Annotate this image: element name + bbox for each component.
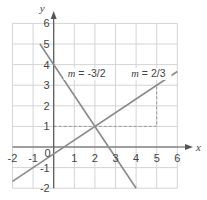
x-tick-label: 3 xyxy=(112,152,118,164)
slope-value: = -3/2 xyxy=(75,67,105,79)
y-tick-label: -1 xyxy=(40,162,50,174)
y-tick-label: 6 xyxy=(44,17,50,29)
x-tick-label: 1 xyxy=(71,152,77,164)
y-tick-label: 4 xyxy=(44,59,50,71)
origin-label: 0 xyxy=(45,147,51,159)
x-tick-label: 2 xyxy=(92,152,98,164)
x-tick-label: 6 xyxy=(174,152,180,164)
x-axis-arrow-icon xyxy=(185,144,193,150)
x-tick-label: -2 xyxy=(8,152,18,164)
chart: xy -2-11234560-2-1123456 m = -3/2m = 2/3 xyxy=(0,0,207,200)
x-axis-label: x xyxy=(195,141,201,153)
x-tick-label: 4 xyxy=(133,152,139,164)
y-tick-label: 3 xyxy=(44,79,50,91)
x-tick-label: 5 xyxy=(154,152,160,164)
slope-annotation: m = -3/2 xyxy=(68,67,106,79)
y-tick-label: 5 xyxy=(44,38,50,50)
y-tick-label: 2 xyxy=(44,100,50,112)
slope-value: = 2/3 xyxy=(139,67,166,79)
y-tick-label: -2 xyxy=(40,182,50,194)
y-axis-label: y xyxy=(39,2,45,14)
axes: xy xyxy=(13,2,202,188)
slope-annotation: m = 2/3 xyxy=(131,67,165,79)
annotations: m = -3/2m = 2/3 xyxy=(64,67,172,80)
y-tick-label: 1 xyxy=(44,120,50,132)
x-tick-label: -1 xyxy=(28,152,38,164)
y-axis-arrow-icon xyxy=(51,11,57,19)
series-line xyxy=(40,44,136,188)
